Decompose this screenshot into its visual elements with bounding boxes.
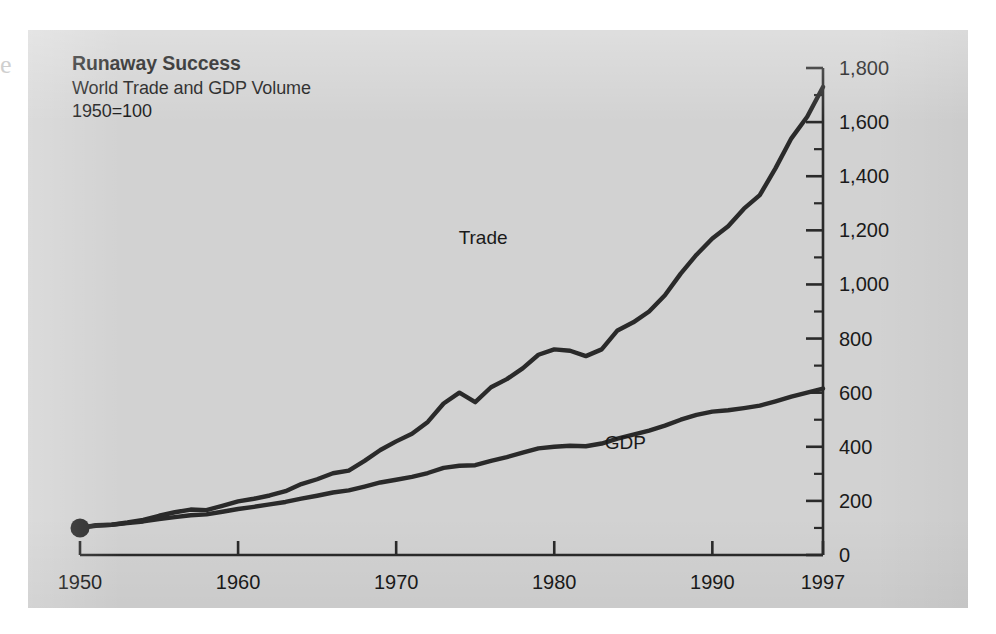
- series-line-trade: [80, 87, 823, 528]
- x-axis-tick-label: 1980: [532, 571, 577, 593]
- y-axis-tick-label: 600: [839, 382, 872, 404]
- x-axis-tick-label: 1990: [690, 571, 735, 593]
- x-axis-tick-label: 1960: [216, 571, 261, 593]
- y-axis-tick-label: 1,400: [839, 165, 889, 187]
- series-line-gdp: [80, 389, 823, 528]
- y-axis-tick-label: 800: [839, 328, 872, 350]
- origin-marker-dot: [71, 518, 90, 537]
- series-label-gdp: GDP: [605, 432, 646, 453]
- y-axis-tick-label: 1,600: [839, 111, 889, 133]
- series-inline-labels: TradeGDP: [459, 227, 646, 454]
- origin-marker-layer: [71, 518, 90, 537]
- x-axis-ticks: [80, 541, 823, 555]
- x-axis-tick-label: 1970: [374, 571, 419, 593]
- y-axis-tick-labels: 02004006008001,0001,2001,4001,6001,800: [839, 57, 889, 566]
- line-chart: 02004006008001,0001,2001,4001,6001,800 1…: [28, 30, 968, 608]
- y-axis-tick-label: 200: [839, 490, 872, 512]
- y-axis-tick-label: 1,800: [839, 57, 889, 79]
- page-bleed-glyph: e: [0, 52, 22, 78]
- series-label-trade: Trade: [459, 227, 508, 248]
- x-axis-tick-labels: 195019601970198019901997: [58, 571, 846, 593]
- y-axis-tick-label: 0: [839, 544, 850, 566]
- y-axis-tick-label: 400: [839, 436, 872, 458]
- y-axis-tick-label: 1,200: [839, 219, 889, 241]
- figure-root: e Runaway Success World Trade and GDP Vo…: [0, 0, 996, 634]
- axis-layer: [80, 68, 823, 555]
- y-axis-ticks: [806, 68, 823, 555]
- x-axis-tick-label: 1950: [58, 571, 103, 593]
- x-axis-tick-label: 1997: [801, 571, 846, 593]
- series-layer: [80, 87, 823, 528]
- y-axis-tick-label: 1,000: [839, 273, 889, 295]
- chart-panel: Runaway Success World Trade and GDP Volu…: [28, 30, 968, 608]
